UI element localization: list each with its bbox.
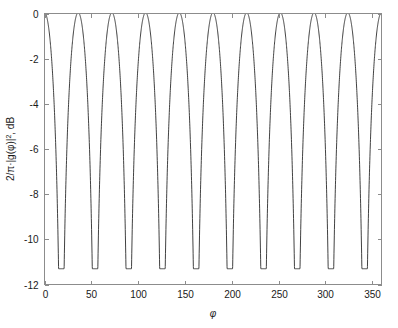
x-tick-label: 200 (224, 289, 241, 300)
y-tick-label: -8 (30, 189, 39, 200)
x-tick-label: 150 (177, 289, 194, 300)
x-tick-label: 250 (271, 289, 288, 300)
x-tick-label: 300 (317, 289, 334, 300)
y-tick-label: -10 (24, 234, 39, 245)
x-tick-label: 0 (43, 289, 49, 300)
y-tick-label: -6 (30, 144, 39, 155)
svg-text:φ: φ (210, 308, 217, 319)
y-tick-label: -2 (30, 54, 39, 65)
x-tick-label: 100 (130, 289, 147, 300)
y-axis-title: 2/π·|g(φ)|2, dB (5, 117, 17, 182)
axes-background (44, 13, 382, 285)
chart-plot: 050100150200250300350 0-2-4-6-8-10-12 φ … (0, 0, 398, 328)
figure-container: 050100150200250300350 0-2-4-6-8-10-12 φ … (0, 0, 398, 328)
y-tick-label: 0 (33, 9, 39, 20)
x-tick-label: 350 (364, 289, 381, 300)
x-tick-label: 50 (86, 289, 98, 300)
y-tick-label: -4 (30, 99, 39, 110)
y-tick-label: -12 (24, 280, 39, 291)
x-axis-title: φ (210, 308, 217, 319)
svg-text:2/π·|g(φ)|2, dB: 2/π·|g(φ)|2, dB (5, 117, 17, 182)
